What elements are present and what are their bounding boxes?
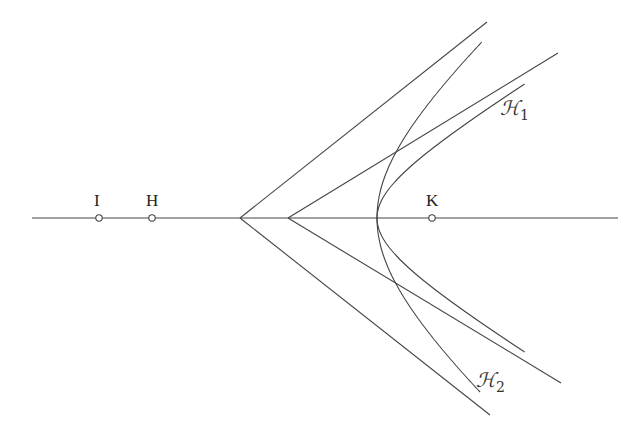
asymptote-line: [240, 218, 490, 415]
asymptote-line: [288, 218, 561, 383]
curve-label-h2: ℋ2: [476, 368, 505, 395]
diagram-svg: [0, 0, 638, 433]
curve-label-h1: ℋ1: [500, 96, 529, 123]
asymptote-line: [288, 53, 558, 218]
diagram-canvas: I H K ℋ1 ℋ2: [0, 0, 638, 433]
asymptote-line: [240, 22, 487, 218]
point-label-k: K: [426, 191, 438, 211]
point-label-i: I: [94, 191, 100, 211]
point-h: [149, 215, 155, 221]
point-label-h: H: [146, 191, 158, 211]
point-i: [96, 215, 102, 221]
point-k: [429, 215, 435, 221]
